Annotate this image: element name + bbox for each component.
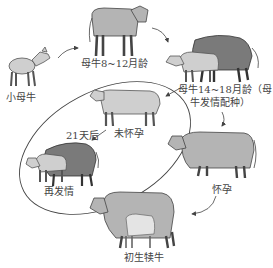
arrow-pregnant-to-newborn [192, 196, 216, 214]
label-not-pregnant: 未怀孕 [114, 128, 144, 140]
reheat-pair-illustration [26, 143, 99, 186]
cow-with-newborn-illustration [90, 192, 174, 248]
label-pregnant: 怀孕 [212, 184, 232, 196]
young-calf-illustration [9, 47, 50, 86]
label-breeding-line2: 牛发情配种） [190, 97, 250, 109]
label-young-calf: 小母牛 [6, 92, 36, 104]
label-newborn-calf: 初生犊牛 [124, 252, 164, 264]
breeding-pair-illustration [166, 35, 258, 82]
heifer-illustration [89, 6, 148, 56]
arrow-calf-to-heifer [58, 48, 78, 58]
label-reheat: 再发情 [44, 186, 74, 198]
label-breeding-line1: 母牛14~18月龄（母 [178, 84, 272, 96]
pregnant-cow-illustration [168, 132, 256, 178]
not-pregnant-cow-illustration [90, 90, 160, 126]
label-after-21-days: 21天后 [66, 130, 99, 142]
arrow-heifer-to-breeding [152, 28, 168, 42]
label-heifer-8-12-months: 母牛8~12月龄 [81, 58, 148, 70]
arrow-breeding-to-pregnant [222, 112, 224, 126]
